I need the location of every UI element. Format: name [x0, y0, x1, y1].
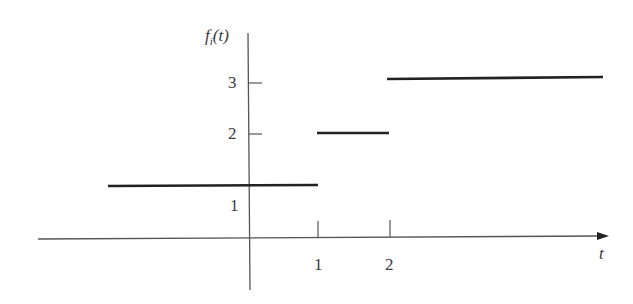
y-axis	[248, 33, 250, 290]
x-tick-label-2: 2	[385, 256, 394, 273]
x-tick-label-1: 1	[314, 256, 323, 273]
y-axis-label: fi(t)	[205, 27, 229, 47]
x-axis-label: t	[599, 245, 604, 262]
step-segment-1	[108, 185, 318, 186]
x-axis	[38, 236, 600, 239]
x-axis-arrow-icon	[597, 232, 609, 240]
y-label-arg: (t)	[213, 26, 229, 45]
y-tick-label-1: 1	[230, 197, 239, 214]
y-tick-label-2: 2	[228, 125, 237, 142]
y-tick-label-3: 3	[228, 74, 237, 91]
step-segment-3	[387, 77, 603, 79]
